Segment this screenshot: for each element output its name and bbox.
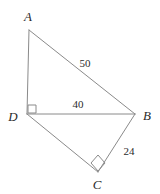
segment-BC [98, 114, 135, 172]
right-angle-marker-D [28, 105, 36, 113]
vertex-label-C: C [93, 178, 102, 191]
length-label-BC: 24 [124, 146, 135, 157]
segment-DC [27, 114, 98, 172]
vertex-label-B: B [143, 109, 151, 122]
segment-AD [27, 30, 29, 114]
geometry-figure: A B C D 50 40 24 [0, 0, 160, 194]
vertex-label-D: D [8, 110, 17, 123]
length-label-DB: 40 [73, 99, 84, 110]
length-label-AB: 50 [80, 58, 91, 69]
vertex-label-A: A [24, 10, 32, 23]
